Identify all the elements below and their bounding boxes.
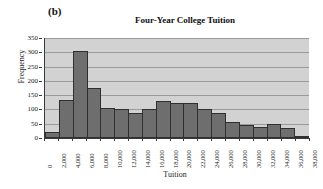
x-tick-mark (58, 138, 59, 141)
x-tick-label: 2,000 (61, 153, 68, 168)
histogram-bar (225, 122, 240, 138)
y-tick-label: 250 (28, 64, 39, 71)
histogram-bar (156, 101, 171, 138)
x-tick-mark (72, 138, 73, 141)
x-tick-label: 36,000 (298, 150, 305, 168)
y-tick-mark (39, 52, 42, 53)
y-tick-mark (39, 109, 42, 110)
histogram-bar (170, 103, 185, 138)
x-tick-label: 18,000 (173, 150, 180, 168)
histogram-bar (87, 88, 102, 138)
figure-panel: (b) Four-Year College Tuition Frequency … (0, 0, 323, 189)
chart-title: Four-Year College Tuition (105, 15, 265, 25)
x-tick-label: 12,000 (131, 150, 138, 168)
y-axis-tick-labels: 050100150200250300350 (18, 33, 42, 143)
x-tick-label: 22,000 (200, 150, 207, 168)
x-tick-label: 30,000 (256, 150, 263, 168)
y-tick-label: 150 (28, 92, 39, 99)
x-tick-mark (183, 138, 184, 141)
panel-label: (b) (48, 5, 61, 17)
y-tick-label: 0 (35, 135, 39, 142)
x-tick-label: 34,000 (284, 150, 291, 168)
histogram-bar (267, 124, 282, 138)
y-tick-label: 200 (28, 78, 39, 85)
y-tick-label: 100 (28, 106, 39, 113)
x-tick-mark (253, 138, 254, 141)
y-tick-mark (39, 81, 42, 82)
y-tick-label: 350 (28, 35, 39, 42)
x-tick-mark (156, 138, 157, 141)
x-tick-label: 24,000 (214, 150, 221, 168)
x-axis-tick-labels: 02,0004,0006,0008,00010,00012,00014,0001… (44, 138, 310, 172)
x-tick-label: 16,000 (159, 150, 166, 168)
x-tick-label: 8,000 (103, 153, 110, 168)
y-tick-mark (39, 38, 42, 39)
x-tick-mark (114, 138, 115, 141)
x-tick-mark (100, 138, 101, 141)
histogram-bar (239, 125, 254, 138)
x-tick-label: 28,000 (242, 150, 249, 168)
histogram-bar (211, 113, 226, 138)
x-tick-label: 20,000 (186, 150, 193, 168)
plot-area (44, 38, 309, 138)
histogram-bars (45, 38, 309, 138)
x-tick-mark (309, 138, 310, 141)
x-tick-label: 32,000 (270, 150, 277, 168)
x-tick-label: 38,000 (312, 150, 319, 168)
histogram-bar (253, 127, 268, 138)
histogram-bar (183, 103, 198, 138)
x-tick-label: 14,000 (145, 150, 152, 168)
x-tick-mark (197, 138, 198, 141)
x-tick-mark (295, 138, 296, 141)
x-tick-mark (44, 138, 45, 141)
histogram-bar (73, 51, 88, 138)
y-tick-label: 300 (28, 49, 39, 56)
x-tick-label: 26,000 (228, 150, 235, 168)
x-tick-mark (128, 138, 129, 141)
x-tick-label: 6,000 (89, 153, 96, 168)
histogram-bar (59, 100, 74, 138)
histogram-bar (142, 109, 157, 138)
x-axis-title: Tuition (110, 170, 240, 179)
y-tick-label: 50 (31, 121, 38, 128)
x-tick-mark (211, 138, 212, 141)
y-tick-mark (39, 124, 42, 125)
x-tick-label: 10,000 (117, 150, 124, 168)
x-tick-mark (239, 138, 240, 141)
histogram-bar (128, 113, 143, 138)
y-tick-mark (39, 95, 42, 96)
histogram-bar (197, 109, 212, 138)
x-tick-mark (86, 138, 87, 141)
x-tick-mark (267, 138, 268, 141)
x-tick-mark (142, 138, 143, 141)
x-tick-mark (225, 138, 226, 141)
y-tick-mark (39, 138, 42, 139)
histogram-bar (280, 128, 295, 138)
x-tick-label: 0 (47, 165, 54, 168)
y-tick-mark (39, 67, 42, 68)
x-tick-label: 4,000 (75, 153, 82, 168)
x-tick-mark (170, 138, 171, 141)
histogram-bar (114, 109, 129, 138)
x-tick-mark (281, 138, 282, 141)
histogram-bar (100, 108, 115, 138)
